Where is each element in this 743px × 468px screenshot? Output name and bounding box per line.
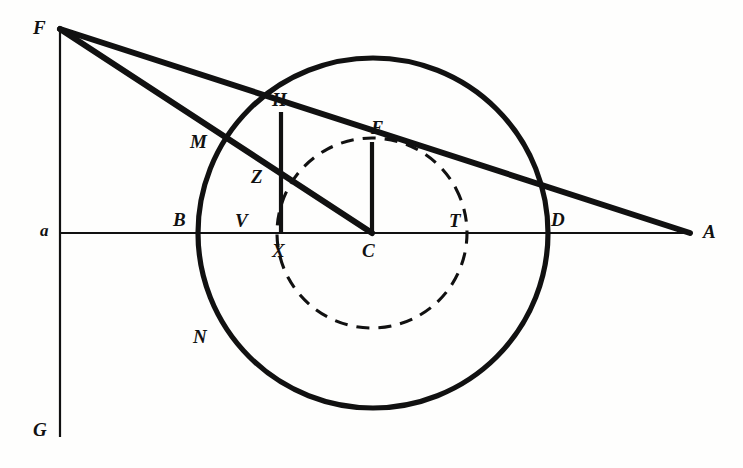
point-label-G: G [33,420,47,439]
point-label-C: C [362,241,375,260]
point-label-Z: Z [251,167,263,186]
point-label-M: M [190,132,207,151]
point-label-H: H [272,90,287,109]
geometry-figure: FHEMZaBVTDAXCNG [0,0,743,468]
point-label-N: N [193,327,207,346]
point-label-A: A [703,222,716,241]
segment-F-to-C [60,29,372,233]
point-label-B: B [173,210,186,229]
point-label-X: X [272,241,285,260]
point-label-D: D [551,210,565,229]
point-label-V: V [235,211,248,230]
point-label-E: E [371,118,384,137]
point-label-T: T [449,211,461,230]
point-label-a: a [40,222,49,239]
point-label-F: F [33,18,46,37]
figure-canvas [0,0,743,468]
